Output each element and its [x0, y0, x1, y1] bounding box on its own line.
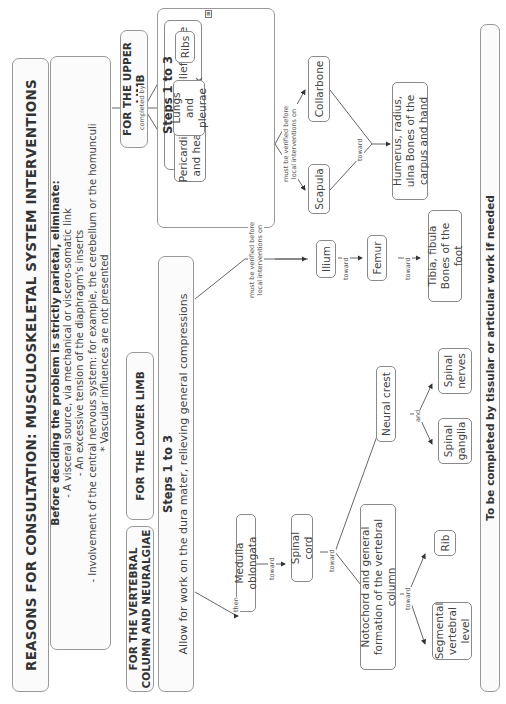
- footer-box: To be completed by tissular or articular…: [480, 24, 500, 692]
- intro-line: - Involvement of the central nervous sys…: [87, 123, 100, 582]
- edge-label-and: and: [414, 410, 422, 422]
- node-spinal-cord[interactable]: Spinal cord: [291, 514, 313, 582]
- intro-heading: Before deciding the problem is strictly …: [49, 180, 62, 526]
- node-spinal-ganglia[interactable]: Spinal ganglia: [438, 418, 472, 464]
- edge-label-toward: toward: [404, 587, 412, 610]
- edge-label-must-verify: must be verified before local interventi…: [248, 220, 264, 300]
- node-ribs[interactable]: Ribs: [175, 31, 195, 63]
- edge-label-toward: toward: [356, 138, 364, 161]
- vertebral-steps-heading: Steps 1 to 3: [161, 435, 176, 513]
- intro-line: - An excessive tension of the diaphragm'…: [74, 230, 87, 477]
- edge-label-toward: toward: [268, 557, 276, 580]
- edge-label-then: then: [232, 597, 240, 612]
- intro-box: Before deciding the problem is strictly …: [50, 56, 111, 650]
- node-segmental-level[interactable]: Segmental vertebral level: [432, 602, 472, 660]
- footer-text: To be completed by tissular or articular…: [484, 195, 496, 521]
- edge-label-toward: toward: [404, 257, 412, 280]
- node-notochord[interactable]: Notochord and general formation of the v…: [360, 504, 396, 670]
- node-spinal-nerves[interactable]: Spinal nerves: [438, 348, 472, 394]
- intro-line: - A visceral source, via mechanical or v…: [62, 208, 75, 498]
- node-scapula[interactable]: Scapula: [308, 164, 330, 214]
- page-title-box: REASONS FOR CONSULTATION: MUSCULOSKELETA…: [12, 58, 49, 692]
- edge-label-must-verify: must be verified before local interventi…: [282, 104, 298, 184]
- edge-label-toward: toward: [328, 549, 336, 572]
- vertebral-steps-box: Steps 1 to 3 Allow for work on the dura …: [158, 256, 194, 692]
- section-vertebral: FOR THE VERTEBRAL COLUMN AND NEURALGIAE: [126, 526, 154, 692]
- node-tibia-fibula[interactable]: Tibia, fibula Bones of the foot: [428, 210, 462, 302]
- node-humerus-radius-ulna[interactable]: Humerus, radius, ulna Bones of the carpu…: [392, 82, 428, 200]
- edge-label-completed-by: completed by: [138, 85, 146, 130]
- intro-line: * Vascular influences are not presented: [99, 254, 112, 451]
- vertebral-steps-text: Allow for work on the dura mater, reliev…: [176, 294, 191, 655]
- section-lower-limb-label: FOR THE LOWER LIMB: [134, 371, 147, 500]
- node-collarbone[interactable]: Collarbone: [308, 56, 330, 122]
- node-rib[interactable]: Rib: [434, 530, 456, 556]
- section-vertebral-label: FOR THE VERTEBRAL COLUMN AND NEURALGIAE: [127, 527, 153, 691]
- node-femur[interactable]: Femur: [367, 235, 387, 281]
- page-title: REASONS FOR CONSULTATION: MUSCULOSKELETA…: [23, 79, 39, 671]
- edge-label-toward: toward: [342, 257, 350, 280]
- node-neural-crest[interactable]: Neural crest: [376, 366, 396, 442]
- node-ilium[interactable]: Ilium: [316, 240, 336, 278]
- node-lungs-pleurae[interactable]: Lungs and pleurae: [173, 80, 205, 136]
- concept-map: REASONS FOR CONSULTATION: MUSCULOSKELETA…: [0, 0, 506, 704]
- section-lower-limb: FOR THE LOWER LIMB: [126, 352, 154, 520]
- collapse-icon[interactable]: ⊠: [205, 10, 212, 18]
